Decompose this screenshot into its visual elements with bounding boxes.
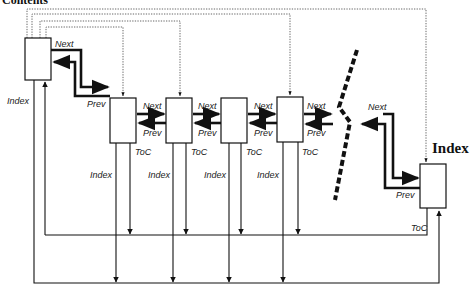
svg-text:Index: Index <box>204 170 227 180</box>
svg-text:ToC: ToC <box>135 147 152 157</box>
svg-text:Prev: Prev <box>143 128 162 138</box>
svg-text:Prev: Prev <box>307 128 326 138</box>
diagram-title: Contents <box>2 0 48 7</box>
index-next-prev <box>362 114 420 188</box>
toc-bus <box>45 208 427 235</box>
contents-index-label: Index <box>7 96 30 106</box>
contents-block[interactable] <box>25 38 51 80</box>
page-block-3[interactable] <box>221 98 247 143</box>
index-heading: Index <box>432 140 469 156</box>
svg-text:Prev: Prev <box>254 128 273 138</box>
break-line <box>335 50 357 200</box>
contents-next-prev <box>51 50 110 96</box>
svg-text:ToC: ToC <box>302 147 319 157</box>
next-label: Next <box>55 39 74 49</box>
page-block-2[interactable] <box>166 98 192 143</box>
svg-text:Index: Index <box>90 170 113 180</box>
svg-text:ToC: ToC <box>191 147 208 157</box>
svg-text:Prev: Prev <box>198 128 217 138</box>
svg-text:Index: Index <box>148 170 171 180</box>
index-block[interactable] <box>420 164 446 208</box>
svg-text:Next: Next <box>254 101 273 111</box>
svg-text:ToC: ToC <box>246 147 263 157</box>
page-block-1[interactable] <box>110 98 136 143</box>
svg-text:Next: Next <box>307 101 326 111</box>
page-block-4[interactable] <box>277 97 303 142</box>
svg-text:Index: Index <box>257 170 280 180</box>
index-toc-label: ToC <box>411 223 428 233</box>
linked-pages-diagram: Contents Next Prev Next Prev Next Prev N… <box>0 0 474 289</box>
page-verticals <box>116 142 298 282</box>
page-vertical-labels: ToC ToC ToC ToC Index Index Index Index <box>90 147 319 180</box>
prev-label: Prev <box>87 99 106 109</box>
index-next-label: Next <box>368 102 387 112</box>
svg-text:Next: Next <box>198 101 217 111</box>
index-prev-label: Prev <box>396 190 415 200</box>
svg-text:Next: Next <box>143 101 162 111</box>
